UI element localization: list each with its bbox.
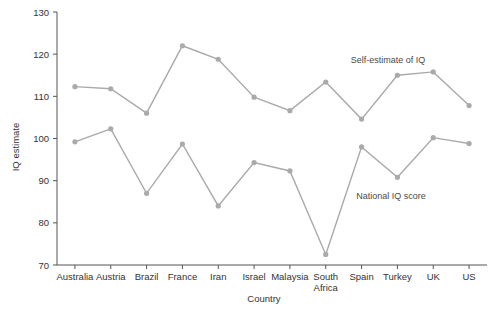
data-point bbox=[216, 203, 221, 208]
y-axis: 708090100110120130 bbox=[33, 7, 57, 271]
data-point bbox=[359, 117, 364, 122]
data-point bbox=[395, 175, 400, 180]
data-point bbox=[323, 79, 328, 84]
y-tick-label: 110 bbox=[34, 91, 49, 102]
iq-estimate-line-chart: 708090100110120130 AustraliaAustriaBrazi… bbox=[0, 0, 494, 313]
data-point bbox=[180, 43, 185, 48]
series-annotation-2: National IQ score bbox=[356, 191, 426, 201]
y-tick-label: 70 bbox=[38, 260, 49, 271]
data-point bbox=[108, 126, 113, 131]
x-tick-label: US bbox=[462, 271, 475, 282]
data-point bbox=[287, 168, 292, 173]
x-tick-label: SouthAfrica bbox=[313, 271, 338, 293]
x-tick-label: Israel bbox=[242, 271, 265, 282]
x-tick-label: Spain bbox=[349, 271, 373, 282]
y-tick-label: 80 bbox=[38, 217, 49, 228]
data-point bbox=[431, 69, 436, 74]
x-axis-title: Country bbox=[247, 293, 281, 304]
x-tick-label: Austria bbox=[96, 271, 126, 282]
data-point bbox=[431, 135, 436, 140]
data-point bbox=[72, 84, 77, 89]
data-point bbox=[359, 144, 364, 149]
y-tick-label: 120 bbox=[33, 49, 49, 60]
data-point bbox=[323, 252, 328, 257]
x-tick-label: Australia bbox=[56, 271, 94, 282]
x-tick-label: Turkey bbox=[383, 271, 412, 282]
data-point bbox=[180, 141, 185, 146]
y-tick-label: 100 bbox=[33, 133, 49, 144]
y-tick-label: 130 bbox=[33, 7, 49, 18]
series-annotation-1: Self-estimate of IQ bbox=[351, 55, 426, 65]
data-point bbox=[287, 108, 292, 113]
series-annotations: Self-estimate of IQNational IQ score bbox=[351, 55, 426, 201]
x-tick-label: Brazil bbox=[135, 271, 159, 282]
data-point bbox=[72, 139, 77, 144]
y-axis-title: IQ estimate bbox=[10, 123, 21, 172]
data-point bbox=[466, 103, 471, 108]
x-tick-label: Iran bbox=[210, 271, 226, 282]
data-point bbox=[251, 95, 256, 100]
data-point bbox=[108, 86, 113, 91]
data-point bbox=[466, 141, 471, 146]
data-point bbox=[395, 73, 400, 78]
data-series-group bbox=[72, 43, 471, 257]
x-axis: AustraliaAustriaBrazilFranceIranIsraelMa… bbox=[56, 265, 487, 293]
x-tick-label: Malaysia bbox=[271, 271, 309, 282]
data-point bbox=[251, 160, 256, 165]
data-point bbox=[144, 111, 149, 116]
data-point bbox=[216, 57, 221, 62]
chart-canvas: 708090100110120130 AustraliaAustriaBrazi… bbox=[0, 0, 494, 313]
data-point bbox=[144, 191, 149, 196]
x-tick-label: France bbox=[168, 271, 198, 282]
x-tick-label: UK bbox=[427, 271, 441, 282]
y-tick-label: 90 bbox=[38, 175, 49, 186]
